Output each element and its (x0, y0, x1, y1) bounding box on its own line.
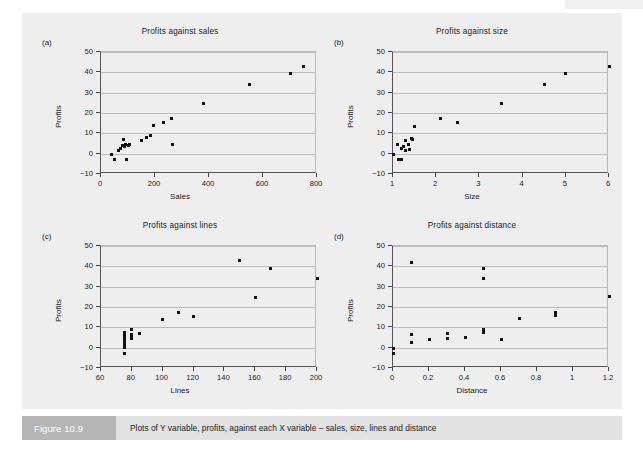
gridline-y (101, 113, 315, 114)
x-axis-label-a: Sales (40, 192, 320, 201)
data-point (152, 124, 155, 127)
xtick-mark (316, 173, 317, 177)
data-point (446, 337, 449, 340)
gridline-y (393, 72, 607, 73)
xtick-mark (522, 173, 523, 177)
ytick-mark (388, 326, 392, 327)
xtick-mark (100, 173, 101, 177)
data-point (408, 148, 411, 151)
data-point (316, 277, 319, 280)
gridline-y (101, 348, 315, 349)
gridline-y (101, 307, 315, 308)
data-point (500, 338, 503, 341)
data-point (404, 149, 407, 152)
data-point (161, 318, 164, 321)
xtick-label: 2 (433, 179, 437, 188)
ytick-label: 20 (332, 302, 385, 311)
x-axis-label-c: Lines (40, 386, 320, 395)
ytick-label: 20 (332, 108, 385, 117)
ytick-label: 40 (332, 261, 385, 270)
xtick-mark (536, 367, 537, 371)
data-point (119, 147, 122, 150)
ytick-label: 10 (332, 128, 385, 137)
ytick-label: 40 (332, 67, 385, 76)
ytick-mark (96, 245, 100, 246)
ytick-label: −10 (40, 169, 93, 178)
figure-root: Profits against sales(a)−100102030405002… (0, 0, 643, 464)
ytick-mark (388, 306, 392, 307)
x-axis-label-b: Size (332, 192, 612, 201)
data-point (410, 333, 413, 336)
ytick-label: 0 (40, 342, 93, 351)
data-point (400, 158, 403, 161)
xtick-label: 1 (390, 179, 394, 188)
data-point (113, 158, 116, 161)
xtick-mark (131, 367, 132, 371)
data-point (428, 338, 431, 341)
data-point (123, 352, 126, 355)
xtick-label: 800 (310, 179, 323, 188)
ytick-mark (388, 347, 392, 348)
data-point (543, 83, 546, 86)
ytick-mark (388, 153, 392, 154)
data-point (128, 143, 131, 146)
chart-panel-b: Profits against size(b)−1001020304050123… (332, 27, 612, 205)
chart-panel-a: Profits against sales(a)−100102030405002… (40, 27, 320, 205)
data-point (413, 125, 416, 128)
ytick-mark (388, 132, 392, 133)
plot-area-c (100, 245, 316, 367)
data-point (396, 143, 399, 146)
figure-caption-text: Plots of Y variable, profits, against ea… (130, 416, 436, 440)
gridline-y (393, 113, 607, 114)
page-top-strip (565, 0, 643, 9)
gridline-y (101, 133, 315, 134)
gridline-y (101, 246, 315, 247)
chart-title-d: Profits against distance (332, 221, 612, 230)
ytick-label: −10 (332, 169, 385, 178)
data-point (404, 139, 407, 142)
xtick-mark (435, 173, 436, 177)
xtick-label: 6 (606, 179, 610, 188)
ytick-mark (96, 153, 100, 154)
y-axis-label-b: Profits (346, 105, 355, 128)
y-axis-label-c: Profits (54, 299, 63, 322)
ytick-mark (96, 112, 100, 113)
xtick-mark (478, 173, 479, 177)
ytick-mark (388, 51, 392, 52)
data-point (238, 259, 241, 262)
xtick-label: 80 (127, 373, 135, 382)
ytick-mark (96, 71, 100, 72)
data-point (439, 117, 442, 120)
xtick-label: 0 (98, 179, 102, 188)
x-axis-label-d: Distance (332, 386, 612, 395)
gridline-y (101, 266, 315, 267)
xtick-mark (500, 367, 501, 371)
gridline-y (393, 133, 607, 134)
gridline-y (101, 72, 315, 73)
data-point (171, 143, 174, 146)
data-point (410, 261, 413, 264)
plot-area-b (392, 51, 608, 173)
xtick-mark (608, 367, 609, 371)
figure-caption-bar: Figure 10.9 Plots of Y variable, profits… (22, 416, 622, 440)
data-point (138, 332, 141, 335)
ytick-mark (388, 265, 392, 266)
xtick-label: 3 (476, 179, 480, 188)
ytick-label: 30 (40, 87, 93, 96)
xtick-mark (193, 367, 194, 371)
gridline-y (101, 287, 315, 288)
xtick-mark (162, 367, 163, 371)
xtick-label: 60 (96, 373, 104, 382)
ytick-mark (96, 92, 100, 93)
plot-area-d (392, 245, 608, 367)
gridline-y (393, 266, 607, 267)
chart-title-c: Profits against lines (40, 221, 320, 230)
figure-number-tag: Figure 10.9 (22, 416, 116, 440)
xtick-mark (262, 173, 263, 177)
gridline-y (101, 93, 315, 94)
ytick-label: −10 (40, 363, 93, 372)
xtick-label: 4 (519, 179, 523, 188)
gridline-y (393, 154, 607, 155)
ytick-mark (96, 306, 100, 307)
charts-grid: Profits against sales(a)−100102030405002… (22, 13, 622, 409)
